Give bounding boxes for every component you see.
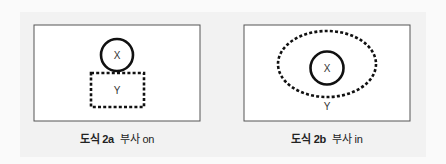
figure-2a-title: 부사 on [120,133,154,145]
label-y-2b: Y [324,101,331,112]
figure-2b-caption: 도식 2b부사 in [291,130,363,146]
figure-2a-caption: 도식 2a부사 on [80,130,155,146]
figure-2b-title: 부사 in [332,133,363,145]
figure-2a-number: 도식 2a [80,133,114,145]
label-x-2a: X [114,50,121,61]
figure-2a: X Y [34,25,200,121]
diagram-canvas: X Y X Y [0,0,446,164]
figure-2b: X Y [244,25,410,121]
label-y-2a: Y [114,85,121,96]
figure-2b-number: 도식 2b [291,133,326,145]
label-x-2b: X [324,63,331,74]
